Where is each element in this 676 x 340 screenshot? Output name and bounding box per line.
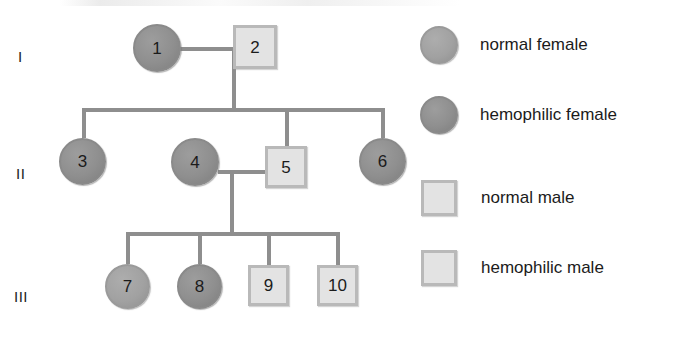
individual-2-number: 2: [250, 39, 259, 56]
sibship-bar-gen2: [82, 108, 385, 112]
legend-item-normal-male: normal male: [421, 180, 575, 216]
individual-3[interactable]: 3: [59, 138, 106, 185]
individual-9-number: 9: [264, 277, 273, 294]
legend-item-normal-female: normal female: [420, 26, 588, 64]
mating-line-4-5: [218, 170, 266, 174]
generation-label-1: I: [18, 48, 23, 65]
individual-5[interactable]: 5: [265, 146, 307, 188]
legend-key-hemophilic-male-icon: [421, 250, 457, 286]
legend-item-hemophilic-female: hemophilic female: [420, 96, 617, 134]
legend-label-normal-female: normal female: [480, 35, 588, 55]
individual-6-number: 6: [378, 153, 387, 170]
legend-key-normal-male-icon: [421, 180, 457, 216]
sibship-drop-3: [82, 108, 86, 138]
sibship-drop-10: [336, 232, 340, 265]
individual-1[interactable]: 1: [133, 24, 181, 72]
individual-10-number: 10: [328, 277, 347, 294]
legend-key-normal-female-icon: [420, 26, 458, 64]
individual-8-number: 8: [195, 278, 204, 295]
legend-key-hemophilic-female-icon: [420, 96, 458, 134]
generation-label-2: II: [16, 165, 25, 182]
sibship-drop-8: [198, 232, 202, 264]
descent-line-gen2: [230, 170, 234, 236]
individual-7-number: 7: [123, 278, 132, 295]
individual-4[interactable]: 4: [171, 138, 219, 186]
mating-line-1-2: [178, 47, 236, 51]
individual-5-number: 5: [281, 159, 290, 176]
individual-2[interactable]: 2: [233, 25, 277, 69]
generation-label-3: III: [14, 288, 28, 305]
individual-6[interactable]: 6: [359, 138, 406, 185]
sibship-drop-5: [285, 108, 289, 146]
individual-8[interactable]: 8: [177, 264, 222, 309]
pedigree-figure: I II III 1 2 3 4 5 6 7 8: [0, 0, 676, 340]
legend-label-normal-male: normal male: [481, 188, 575, 208]
individual-4-number: 4: [190, 154, 199, 171]
scan-artifact: [60, 0, 460, 6]
individual-10[interactable]: 10: [317, 265, 358, 306]
individual-9[interactable]: 9: [248, 265, 289, 306]
sibship-drop-6: [381, 108, 385, 138]
individual-3-number: 3: [78, 153, 87, 170]
sibship-bar-gen3: [126, 232, 340, 236]
sibship-drop-7: [126, 232, 130, 264]
legend-label-hemophilic-female: hemophilic female: [480, 105, 617, 125]
individual-7[interactable]: 7: [105, 264, 150, 309]
legend-item-hemophilic-male: hemophilic male: [421, 250, 604, 286]
legend-label-hemophilic-male: hemophilic male: [481, 258, 604, 278]
sibship-drop-9: [267, 232, 271, 265]
individual-1-number: 1: [152, 40, 161, 57]
